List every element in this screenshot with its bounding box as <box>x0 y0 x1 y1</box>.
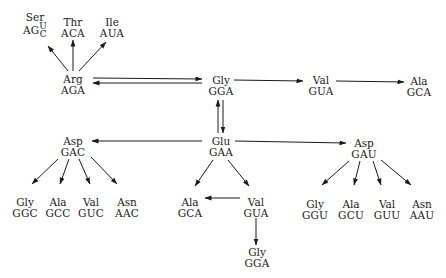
codon-node-gly-top: Gly GGA <box>209 75 234 97</box>
codon-label: GGC <box>12 208 37 219</box>
codon-node-ala-gcc: Ala GCC <box>45 197 70 219</box>
codon-label: GUC <box>78 208 104 219</box>
codon-label: AGA <box>61 85 85 96</box>
codon-node-ala-top: Ala GCA <box>407 76 432 98</box>
codon-label: GCA <box>178 208 203 219</box>
codon-label: ACA <box>61 28 85 39</box>
codon-node-asn-aac: Asn AAC <box>115 197 139 219</box>
codon-node-val-gua-mid: Val GUA <box>243 197 268 219</box>
codon-label: GAC <box>61 147 86 158</box>
codon-label: GGU <box>302 210 328 221</box>
codon-mutation-diagram: Ser AGUC Thr ACA Ile AUA Arg AGA Gly GGA… <box>0 0 446 278</box>
codon-label: GCU <box>338 210 364 221</box>
codon-label: GUA <box>243 208 268 219</box>
codon-node-glu: Glu GAA <box>209 136 233 158</box>
arrow-asp-gau-to-asn-aau <box>381 160 411 185</box>
arrow-arg-to-gly-top <box>93 78 202 79</box>
codon-label: AAC <box>115 208 139 219</box>
codon-node-gly-gga-bot: Gly GGA <box>245 247 270 269</box>
arrow-gly-top-to-val-top <box>234 80 303 81</box>
codon-node-val-guc: Val GUC <box>78 197 104 219</box>
codon-node-val-guu: Val GUU <box>374 199 401 221</box>
codon-label: GAU <box>351 149 376 160</box>
codon-node-val-top: Val GUA <box>308 75 333 97</box>
codon-node-arg: Arg AGA <box>61 74 85 96</box>
arrow-asp-gau-to-val-guu <box>373 161 381 185</box>
arrow-asp-gau-to-ala-gcu <box>354 161 360 185</box>
arrow-asp-gau-to-gly-ggu <box>322 161 349 185</box>
arrow-asp-gac-to-ala-gcc <box>60 159 69 184</box>
codon-node-ile: Ile AUA <box>100 17 124 39</box>
arrow-glu-to-ala-gca-mid <box>195 160 213 186</box>
arrow-arg-to-ser <box>48 46 68 71</box>
codon-node-thr: Thr ACA <box>61 17 85 39</box>
arrow-glu-to-val-gua-mid <box>228 160 249 186</box>
codon-node-ala-gcu: Ala GCU <box>338 199 364 221</box>
codon-alt-base: C <box>39 30 47 38</box>
arrow-asp-gac-to-asn-aac <box>91 157 117 184</box>
codon-node-asn-aau: Asn AAU <box>410 199 435 221</box>
arrow-arg-to-ile <box>79 42 106 71</box>
arrow-val-top-to-ala-top <box>336 81 404 82</box>
arrow-glu-to-asp-gau <box>235 141 346 143</box>
codon-label: GAA <box>209 147 233 158</box>
codon-node-asp-gau: Asp GAU <box>351 138 376 160</box>
arrow-asp-gac-to-val-guc <box>79 159 90 184</box>
arrow-asp-gac-to-gly-ggc <box>32 159 58 184</box>
codon-label: GCA <box>407 87 432 98</box>
codon-node-gly-ggc: Gly GGC <box>12 197 37 219</box>
codon-node-asp-gac: Asp GAC <box>61 136 86 158</box>
codon-label: GGA <box>245 258 270 269</box>
codon-alternatives: UC <box>39 22 47 38</box>
codon-label: GGA <box>209 86 234 97</box>
codon-node-ala-gca-mid: Ala GCA <box>178 197 203 219</box>
codon-label: AUA <box>100 28 124 39</box>
codon-label: AAU <box>410 210 435 221</box>
codon-node-gly-ggu: Gly GGU <box>302 199 328 221</box>
codon-node-ser: Ser AGUC <box>23 12 47 39</box>
codon-label: AGUC <box>23 23 47 39</box>
codon-label: GUA <box>308 86 333 97</box>
codon-label: GCC <box>45 208 70 219</box>
codon-label: GUU <box>374 210 401 221</box>
